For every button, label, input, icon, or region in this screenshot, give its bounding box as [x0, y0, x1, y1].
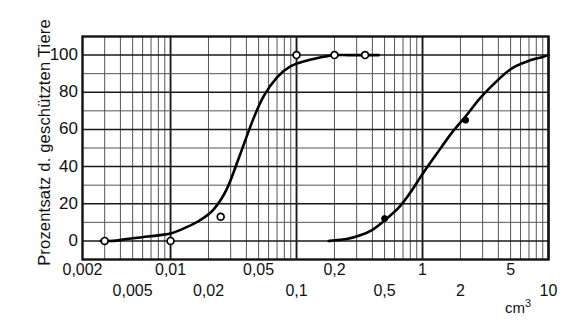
gridlines	[83, 37, 549, 260]
figure-container: Prozentsatz d. geschützten Tiere 0204060…	[0, 0, 575, 323]
plot-area	[0, 0, 575, 323]
